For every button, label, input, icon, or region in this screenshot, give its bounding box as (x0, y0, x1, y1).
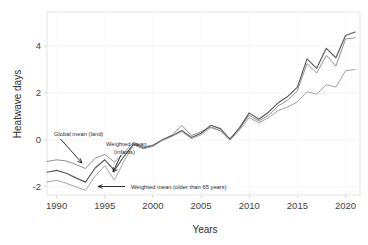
y-axis-ticks: -2024 (33, 40, 47, 192)
annotation-weighted-mean-infants-line2: (infants) (114, 149, 135, 155)
arrow-global-mean-land (61, 139, 83, 163)
annotation-weighted-mean-older: Weighted mean (older than 65 years) (131, 184, 227, 190)
gridlines (47, 12, 360, 195)
annotation-weighted-mean-infants-line1: Weighted mean (106, 141, 147, 147)
x-tick-label-1995: 1995 (94, 200, 115, 211)
x-axis-title: Years (192, 224, 217, 235)
x-tick-label-2005: 2005 (191, 200, 212, 211)
heatwave-days-chart: -2024 1990199520002005201020152020 Globa… (0, 0, 368, 245)
x-tick-label-1990: 1990 (46, 200, 67, 211)
x-tick-label-2010: 2010 (239, 200, 260, 211)
x-tick-label-2000: 2000 (142, 200, 163, 211)
x-tick-label-2020: 2020 (335, 200, 356, 211)
y-tick-label-4: 4 (36, 40, 41, 51)
y-axis-title: Heatwave days (12, 70, 23, 138)
chart-canvas: -2024 1990199520002005201020152020 Globa… (0, 0, 368, 245)
y-tick-label-0: 0 (36, 134, 41, 145)
annotation-global-mean-land: Global mean (land) (54, 131, 103, 137)
x-tick-label-2015: 2015 (287, 200, 308, 211)
x-axis-ticks: 1990199520002005201020152020 (46, 195, 356, 211)
y-tick-label-2: 2 (36, 87, 41, 98)
plot-frame (47, 12, 360, 195)
y-tick-label--2: -2 (33, 181, 41, 192)
